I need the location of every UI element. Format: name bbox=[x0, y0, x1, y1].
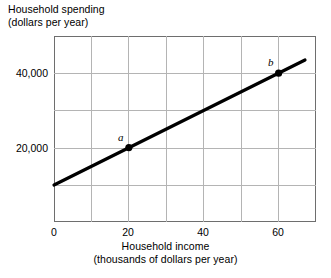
data-point-b bbox=[275, 70, 282, 77]
chart-figure: Household spending (dollars per year) a … bbox=[0, 0, 331, 278]
x-tick-label-0: 0 bbox=[31, 226, 77, 238]
x-axis-title: Household income (thousands of dollars p… bbox=[0, 240, 331, 266]
data-point-label-b: b bbox=[268, 56, 274, 68]
y-tick-label-20000: 20,000 bbox=[0, 142, 48, 154]
x-tick-label-60: 60 bbox=[255, 226, 301, 238]
data-point-a bbox=[125, 144, 132, 151]
y-axis-title: Household spending (dollars per year) bbox=[8, 3, 105, 29]
data-point-label-a: a bbox=[118, 131, 124, 143]
x-tick-label-40: 40 bbox=[180, 226, 226, 238]
y-tick-label-40000: 40,000 bbox=[0, 67, 48, 79]
y-axis-title-line1: Household spending bbox=[8, 3, 105, 16]
x-axis-title-line2: (thousands of dollars per year) bbox=[0, 253, 331, 266]
x-tick-label-20: 20 bbox=[105, 226, 151, 238]
plot-area: a b bbox=[54, 36, 316, 222]
x-axis-title-line1: Household income bbox=[0, 240, 331, 253]
spending-line bbox=[54, 60, 305, 185]
series-layer bbox=[46, 28, 324, 230]
